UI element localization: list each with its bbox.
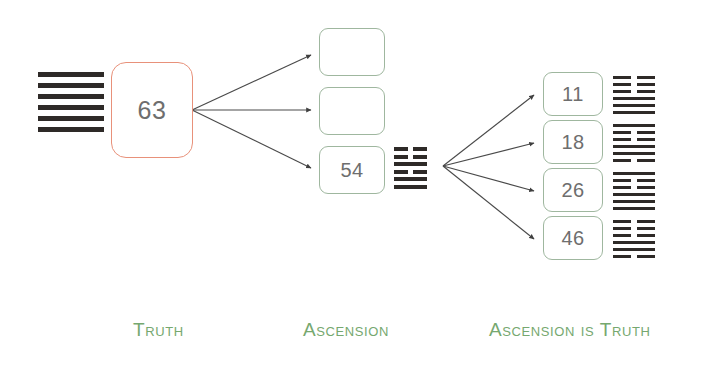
hexagram-line-4-yang [38,94,104,99]
hexagram-54 [394,147,427,189]
hexagram-line-3-yang [613,193,655,196]
caption-ascension: Ascension [303,320,389,339]
hexagram-line-4-yin [613,186,655,189]
node-18-label: 18 [561,132,584,152]
diagram-canvas: 63 54 11 18 26 46 Truth Ascension Ascens… [0,0,710,374]
hexagram-26 [613,172,655,210]
hexagram-line-5-yin [613,179,655,182]
node-46-label: 46 [561,228,584,248]
edge-54-to-11 [443,95,534,166]
hexagram-line-4-yin [613,90,655,93]
hexagram-line-6-yang [38,72,104,77]
hexagram-line-2-yang [613,248,655,251]
hexagram-63 [38,72,104,132]
hexagram-line-1-yang [613,111,655,114]
hexagram-line-2-yang [394,177,427,181]
hexagram-11 [613,76,655,114]
hexagram-line-2-yang [38,116,104,121]
hexagram-line-6-yang [613,172,655,175]
hexagram-line-6-yin [613,76,655,79]
hexagram-line-1-yin [613,255,655,258]
hexagram-line-2-yang [613,152,655,155]
node-63-label: 63 [138,98,167,123]
node-26-label: 26 [561,180,584,200]
hexagram-line-3-yang [613,145,655,148]
hexagram-line-3-yang [613,97,655,100]
node-level1-empty-1[interactable] [319,28,385,76]
hexagram-line-5-yin [613,131,655,134]
hexagram-line-5-yang [38,83,104,88]
node-63[interactable]: 63 [111,62,193,158]
hexagram-46 [613,220,655,258]
hexagram-line-6-yang [613,124,655,127]
hexagram-line-1-yang [38,127,104,132]
edge-54-to-46 [443,166,534,239]
hexagram-line-2-yang [613,104,655,107]
caption-ascension-is-truth: Ascension is Truth [489,320,651,339]
node-54-label: 54 [340,160,363,180]
node-11[interactable]: 11 [543,72,603,116]
hexagram-line-1-yin [613,159,655,162]
hexagram-line-2-yang [613,200,655,203]
node-46[interactable]: 46 [543,216,603,260]
node-18[interactable]: 18 [543,120,603,164]
edge-63-to-empty1 [192,55,311,110]
node-11-label: 11 [562,84,584,104]
caption-truth: Truth [133,320,184,339]
hexagram-line-4-yin [613,234,655,237]
hexagram-18 [613,124,655,162]
hexagram-line-5-yin [394,155,427,159]
hexagram-line-5-yin [613,227,655,230]
hexagram-line-1-yang [613,207,655,210]
hexagram-line-6-yin [613,220,655,223]
node-26[interactable]: 26 [543,168,603,212]
hexagram-line-4-yin [613,138,655,141]
hexagram-line-3-yang [38,105,104,110]
hexagram-line-4-yang [394,162,427,166]
hexagram-line-3-yin [394,170,427,174]
hexagram-line-1-yang [394,185,427,189]
hexagram-line-6-yin [394,147,427,151]
edge-54-to-26 [443,166,534,191]
edge-54-to-18 [443,143,534,166]
node-level1-empty-2[interactable] [319,87,385,135]
node-54[interactable]: 54 [319,146,385,194]
edge-63-to-54 [192,110,311,168]
hexagram-line-5-yin [613,83,655,86]
hexagram-line-3-yang [613,241,655,244]
